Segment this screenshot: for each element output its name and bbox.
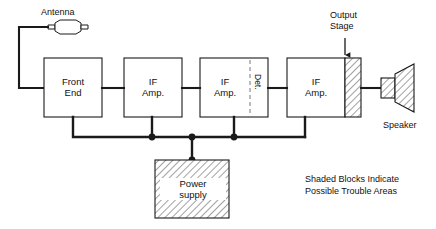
block-output-stage <box>345 58 361 117</box>
junction-dot <box>149 134 156 141</box>
detector-label: Det. <box>253 74 263 90</box>
power-supply-label: Power supply <box>160 178 226 200</box>
figure-caption: Shaded Blocks Indicate Possible Trouble … <box>305 174 399 197</box>
antenna-icon <box>48 20 88 34</box>
block-if-amp-1 <box>124 58 182 117</box>
junction-dot <box>189 134 196 141</box>
junction-dot <box>231 134 238 141</box>
speaker-icon <box>381 64 414 112</box>
block-if-amp-3 <box>287 58 345 117</box>
block-front-end <box>44 58 102 117</box>
block-diagram: Antenna Front End IF Amp. IF Amp. IF Amp… <box>0 0 436 229</box>
output-stage-label: Output Stage <box>330 10 357 32</box>
antenna-label: Antenna <box>41 7 75 18</box>
speaker-label: Speaker <box>383 120 417 131</box>
